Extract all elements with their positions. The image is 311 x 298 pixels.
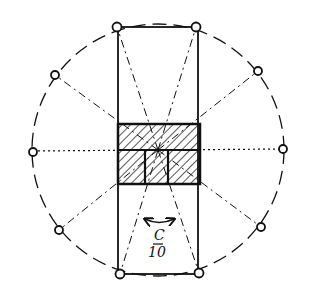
node-p10 (51, 71, 59, 79)
node-p8 (55, 226, 63, 234)
node-p9 (29, 148, 37, 156)
central-block (118, 124, 200, 184)
node-p4 (279, 145, 287, 153)
label-c: C (154, 227, 165, 243)
node-p3 (254, 67, 262, 75)
rotation-arrow-icon (145, 219, 174, 223)
node-p6 (195, 269, 204, 278)
label-10: 10 (148, 244, 166, 260)
node-p7 (116, 270, 125, 279)
node-p1 (113, 23, 122, 32)
diagram-canvas: C 10 (0, 0, 311, 298)
node-p5 (257, 223, 265, 231)
node-p2 (192, 23, 201, 32)
